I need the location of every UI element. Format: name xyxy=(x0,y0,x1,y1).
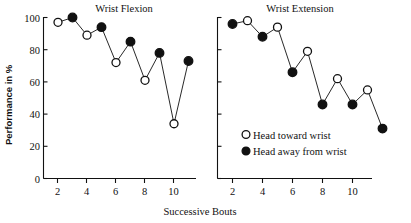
data-point xyxy=(54,18,62,26)
panel-title-wrist-flexion: Wrist Flexion xyxy=(95,3,153,14)
y-ticks-left xyxy=(44,18,48,179)
data-point xyxy=(378,124,387,133)
y-axis-label: Performance in % xyxy=(3,64,14,145)
legend-entry-head-away-from-wrist: Head away from wrist xyxy=(242,146,347,157)
panel-title-wrist-extension: Wrist Extension xyxy=(266,3,334,14)
x-tick-label: 10 xyxy=(347,186,358,197)
data-point xyxy=(97,23,106,32)
x-tick-label: 6 xyxy=(113,186,118,197)
x-tick-label: 2 xyxy=(230,186,235,197)
data-point xyxy=(274,23,282,31)
series-markers-left xyxy=(54,13,193,128)
y-axis-label-text: Performance in % xyxy=(3,64,14,145)
data-point xyxy=(83,31,91,39)
x-tick-label: 6 xyxy=(290,186,295,197)
data-point xyxy=(228,20,237,29)
series-markers-right xyxy=(228,17,387,133)
x-tick-label: 4 xyxy=(84,186,90,197)
y-tick-label: 80 xyxy=(30,45,41,56)
data-point xyxy=(334,75,342,83)
x-ticks-right xyxy=(233,179,353,184)
data-point xyxy=(304,47,312,55)
series-line-right xyxy=(233,21,383,129)
figure-root: Performance in % Wrist Flexion 100 80 60… xyxy=(0,0,411,223)
y-tick-labels-left: 100 80 60 40 20 0 xyxy=(24,13,40,185)
series-group-left xyxy=(54,13,193,128)
x-tick-label: 2 xyxy=(55,186,60,197)
legend-label: Head away from wrist xyxy=(253,146,347,157)
data-point xyxy=(318,100,327,109)
data-point xyxy=(364,86,372,94)
series-group-right xyxy=(228,17,387,133)
x-tick-label: 8 xyxy=(320,186,325,197)
x-tick-labels-right: 2 4 6 8 10 xyxy=(230,186,358,197)
x-tick-label: 8 xyxy=(142,186,147,197)
x-tick-label: 4 xyxy=(260,186,266,197)
data-point xyxy=(288,68,297,77)
y-tick-label: 40 xyxy=(30,109,41,120)
y-tick-label: 60 xyxy=(30,77,41,88)
open-circle-icon xyxy=(242,131,250,139)
data-point xyxy=(141,76,149,84)
data-point xyxy=(348,100,357,109)
legend-label: Head toward wrist xyxy=(253,130,331,141)
x-ticks-left xyxy=(58,179,174,184)
y-tick-label: 20 xyxy=(30,141,41,152)
data-point xyxy=(258,33,267,42)
x-axis-label: Successive Bouts xyxy=(163,206,236,217)
data-point xyxy=(112,59,120,67)
data-point xyxy=(170,120,178,128)
legend: Head toward wrist Head away from wrist xyxy=(242,130,347,158)
data-point xyxy=(184,57,193,66)
data-point xyxy=(244,17,252,25)
x-tick-labels-left: 2 4 6 8 10 xyxy=(55,186,179,197)
y-tick-label: 100 xyxy=(24,13,40,24)
series-line-left xyxy=(58,18,189,124)
x-tick-label: 10 xyxy=(168,186,179,197)
data-point xyxy=(155,49,164,58)
legend-entry-head-toward-wrist: Head toward wrist xyxy=(242,130,331,141)
data-point xyxy=(68,13,77,22)
data-point xyxy=(126,37,135,46)
filled-circle-icon xyxy=(242,147,250,155)
panel-wrist-extension: Wrist Extension 2 4 6 8 10 xyxy=(218,3,387,197)
y-ticks-right xyxy=(218,18,222,179)
panel-wrist-flexion: Wrist Flexion 100 80 60 40 20 0 xyxy=(24,3,196,197)
y-tick-label: 0 xyxy=(35,174,40,185)
